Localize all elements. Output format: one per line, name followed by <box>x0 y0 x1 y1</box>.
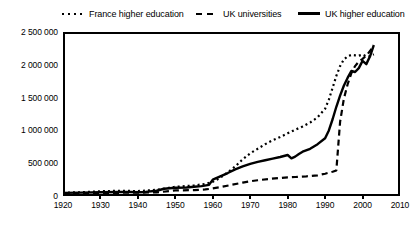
series-line-uk-higher-education <box>63 45 374 193</box>
x-axis-tick-label: 1970 <box>230 201 270 210</box>
x-axis-tick-label: 2000 <box>343 201 383 210</box>
x-axis-tick-label: 1940 <box>118 201 158 210</box>
x-axis-tick-label: 1980 <box>268 201 308 210</box>
x-axis-tick-label: 1930 <box>80 201 120 210</box>
x-axis-tick-label: 1960 <box>193 201 233 210</box>
x-axis-tick-label: 1920 <box>43 201 83 210</box>
plot-area <box>63 32 400 196</box>
x-axis-tick-label: 2010 <box>380 201 418 210</box>
series-line-france-higher-education <box>63 54 374 192</box>
x-axis-tick-label: 1990 <box>305 201 345 210</box>
x-axis-tick-label: 1950 <box>155 201 195 210</box>
chart-container: France higher education UK universities … <box>0 0 418 230</box>
series-line-uk-universities <box>63 45 374 193</box>
